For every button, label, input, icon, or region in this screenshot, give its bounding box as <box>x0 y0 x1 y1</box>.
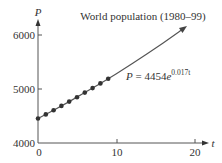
chart-title: World population (1980–99) <box>80 10 206 23</box>
y-axis-arrow-icon <box>36 19 41 26</box>
y-tick-label-4000: 4000 <box>13 137 36 149</box>
data-point <box>90 86 95 91</box>
formula-exponent: 0.017t <box>171 68 191 77</box>
data-point <box>75 95 80 100</box>
y-tick-label-6000: 6000 <box>13 29 36 41</box>
data-point <box>106 76 111 81</box>
data-points <box>36 76 111 120</box>
formula-annotation: P = 4454e0.017t <box>125 68 191 82</box>
x-tick-label-20: 20 <box>190 146 202 158</box>
curve-arrow-icon <box>179 26 187 33</box>
data-point <box>98 81 103 86</box>
formula-base: = 4454 <box>133 70 167 82</box>
data-point <box>59 104 64 109</box>
x-axis-arrow-icon <box>202 141 209 146</box>
data-point <box>83 90 88 95</box>
x-tick-label-10: 10 <box>112 146 124 158</box>
data-point <box>44 112 49 117</box>
data-point <box>36 116 41 121</box>
y-tick-label-5000: 5000 <box>13 83 36 95</box>
data-point <box>67 99 72 104</box>
data-point <box>51 108 56 113</box>
x-tick-label-0: 0 <box>36 146 42 158</box>
y-axis-label: P <box>34 6 42 18</box>
x-axis-label: t <box>211 137 215 149</box>
chart: 6000 5000 4000 0 10 20 P t World populat… <box>0 0 222 163</box>
